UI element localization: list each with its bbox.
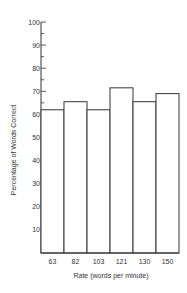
bars [41, 88, 179, 253]
y-tick-label: 70 [32, 88, 40, 95]
bar [64, 102, 87, 253]
x-axis-label: Rate (words per minute) [73, 272, 148, 280]
y-axis-label: Percentage of Words Correct [10, 105, 18, 196]
bar [87, 110, 110, 253]
y-tick-label: 60 [32, 111, 40, 118]
x-tick-labels: 6382103121130150 [49, 258, 174, 265]
bar [133, 102, 156, 253]
y-tick-label: 80 [32, 65, 40, 72]
y-tick-label: 100 [28, 19, 40, 26]
y-tick-label: 30 [32, 180, 40, 187]
x-tick-label: 103 [93, 258, 105, 265]
y-tick-label: 50 [32, 134, 40, 141]
bar [110, 88, 133, 253]
y-tick-label: 10 [32, 226, 40, 233]
y-tick-label: 90 [32, 42, 40, 49]
chart-svg: 102030405060708090100 6382103121130150 R… [0, 0, 187, 293]
x-tick-label: 63 [49, 258, 57, 265]
y-tick-label: 20 [32, 203, 40, 210]
y-tick-label: 40 [32, 157, 40, 164]
x-tick-label: 130 [139, 258, 151, 265]
bar [156, 94, 179, 253]
x-tick-label: 82 [72, 258, 80, 265]
bar-chart: 102030405060708090100 6382103121130150 R… [0, 0, 187, 293]
x-tick-label: 150 [162, 258, 174, 265]
bar [41, 110, 64, 253]
x-tick-label: 121 [116, 258, 128, 265]
